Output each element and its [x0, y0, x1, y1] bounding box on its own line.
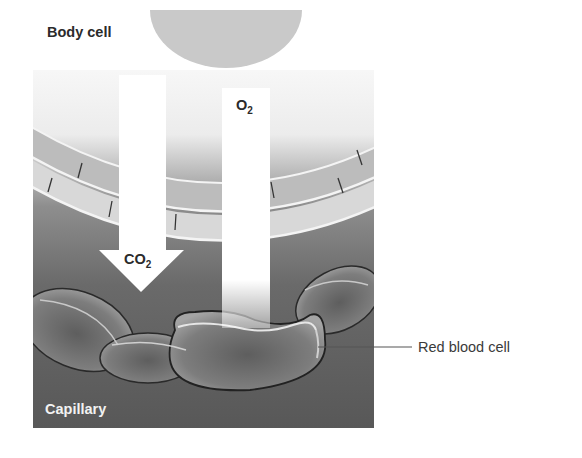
capillary-label: Capillary: [45, 401, 106, 417]
gas-exchange-diagram: Body cell O2: [0, 0, 582, 458]
body-cell-shape: [150, 10, 302, 68]
o2-arrow: [222, 88, 270, 328]
red-blood-cell-label: Red blood cell: [418, 339, 510, 355]
body-cell-label: Body cell: [47, 24, 111, 40]
